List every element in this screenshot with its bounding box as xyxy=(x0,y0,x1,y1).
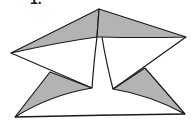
top-right-flap xyxy=(97,9,186,38)
folded-paper-diagram xyxy=(0,0,194,125)
